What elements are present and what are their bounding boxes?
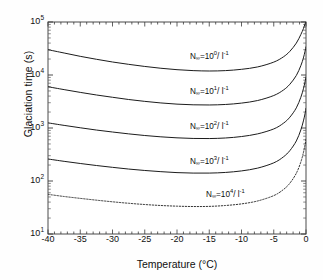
curve-label-series-4: N∞=104/ l-1 xyxy=(206,191,245,199)
plot-area xyxy=(0,0,323,280)
curve-label-series-1: N∞=101/ l-1 xyxy=(190,88,229,96)
curve-label-series-3: N∞=103/ l-1 xyxy=(190,158,229,166)
glaciation-time-chart: Glaciation time (s) Temperature (°C) 101… xyxy=(0,0,323,280)
curve-label-series-2: N∞=102/ l-1 xyxy=(190,123,229,131)
plot-frame xyxy=(48,22,306,234)
curve-label-series-0: N∞=100/ l-1 xyxy=(190,53,229,61)
